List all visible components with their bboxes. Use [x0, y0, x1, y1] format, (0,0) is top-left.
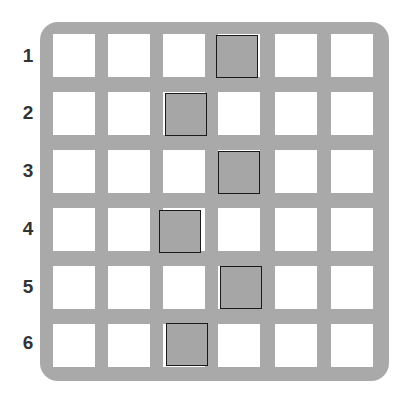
grid-cell[interactable] [218, 208, 260, 251]
marked-cell-row-5[interactable] [220, 266, 262, 309]
grid-cell[interactable] [331, 266, 373, 309]
row-label: 4 [18, 218, 38, 240]
grid-cell[interactable] [331, 34, 373, 77]
marked-cell-row-3[interactable] [218, 151, 260, 194]
grid-cell[interactable] [275, 208, 317, 251]
grid-cell[interactable] [53, 34, 95, 77]
grid-cell[interactable] [275, 324, 317, 367]
marked-cell-row-4[interactable] [159, 210, 201, 253]
grid-cell[interactable] [108, 208, 150, 251]
grid-cell[interactable] [331, 208, 373, 251]
grid-cell[interactable] [53, 208, 95, 251]
grid-cell[interactable] [331, 150, 373, 193]
grid-cell[interactable] [53, 324, 95, 367]
row-label: 5 [18, 276, 38, 298]
marked-cell-row-6[interactable] [166, 323, 208, 366]
grid-cell[interactable] [108, 150, 150, 193]
grid-cell[interactable] [218, 92, 260, 135]
grid-cell[interactable] [275, 266, 317, 309]
grid-cell[interactable] [163, 34, 205, 77]
grid-cell[interactable] [108, 92, 150, 135]
marked-cell-row-2[interactable] [165, 93, 207, 136]
grid-cell[interactable] [275, 150, 317, 193]
grid-cell[interactable] [108, 266, 150, 309]
grid-cell[interactable] [163, 266, 205, 309]
grid-cell[interactable] [163, 150, 205, 193]
grid-cell[interactable] [275, 34, 317, 77]
grid-board [40, 22, 389, 381]
row-label: 2 [18, 102, 38, 124]
grid-cell[interactable] [53, 92, 95, 135]
row-label: 3 [18, 160, 38, 182]
grid-cell[interactable] [331, 92, 373, 135]
grid-cell[interactable] [275, 92, 317, 135]
grid-cell[interactable] [331, 324, 373, 367]
marked-cell-row-1[interactable] [216, 35, 258, 78]
grid-cell[interactable] [218, 324, 260, 367]
grid-cell[interactable] [108, 324, 150, 367]
grid-cell[interactable] [53, 150, 95, 193]
grid-cell[interactable] [108, 34, 150, 77]
grid-cell[interactable] [53, 266, 95, 309]
row-label: 6 [18, 332, 38, 354]
row-label: 1 [18, 45, 38, 67]
